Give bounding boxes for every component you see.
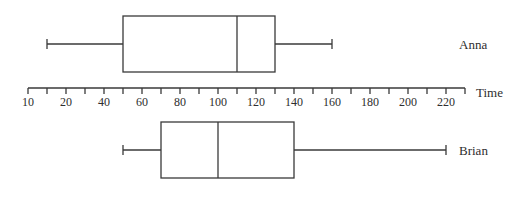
tick-label: 200 — [399, 95, 417, 109]
time-axis: 1020406080100120140160180200220 — [22, 88, 465, 109]
tick-label: 10 — [22, 95, 34, 109]
tick-label: 60 — [136, 95, 148, 109]
tick-label: 80 — [174, 95, 186, 109]
tick-label: 40 — [98, 95, 110, 109]
axis-title: Time — [476, 85, 503, 100]
box-brian: Brian — [123, 122, 488, 178]
box-plot-chart: 1020406080100120140160180200220 Time Ann… — [0, 0, 525, 205]
series-label: Brian — [459, 143, 488, 158]
box-anna: Anna — [47, 16, 487, 72]
tick-label: 220 — [437, 95, 455, 109]
series-label: Anna — [459, 37, 487, 52]
tick-label: 160 — [323, 95, 341, 109]
iqr-box — [161, 122, 294, 178]
iqr-box — [123, 16, 275, 72]
series-group: AnnaBrian — [47, 16, 488, 178]
plot-area: 1020406080100120140160180200220 Time Ann… — [0, 0, 525, 205]
tick-label: 180 — [361, 95, 379, 109]
tick-label: 120 — [247, 95, 265, 109]
tick-label: 20 — [60, 95, 72, 109]
tick-label: 140 — [285, 95, 303, 109]
tick-label: 100 — [209, 95, 227, 109]
